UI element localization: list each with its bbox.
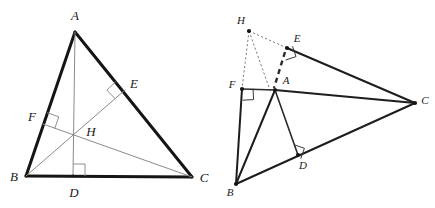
label-B-right: B	[227, 186, 234, 198]
right-right-angle-marks	[243, 46, 305, 158]
right-vertex-labels: H E A F C D B	[227, 14, 430, 198]
dashed-HE	[249, 31, 287, 48]
geometry-figure: A B C D E F H	[0, 0, 435, 208]
right-diagram-obtuse-triangle: H E A F C D B	[0, 0, 435, 208]
right-triangle-sides	[236, 48, 415, 184]
point-C-right	[413, 101, 417, 105]
side-BC	[236, 103, 415, 184]
dashed-HB	[249, 31, 271, 93]
label-H-right: H	[236, 14, 246, 26]
label-F-right: F	[228, 78, 236, 90]
label-E-right: E	[293, 32, 301, 44]
right-point-dots	[234, 29, 417, 186]
point-E-right	[285, 46, 289, 50]
point-F-right	[240, 87, 244, 91]
right-angle-at-F	[243, 89, 254, 101]
point-H-right	[247, 29, 251, 33]
point-A-right	[273, 88, 277, 92]
side-EC	[287, 48, 415, 103]
side-AC	[275, 90, 415, 103]
right-cevians	[242, 89, 298, 155]
point-B-right	[234, 182, 238, 186]
label-C-right: C	[421, 94, 429, 106]
dashed-HF	[242, 31, 249, 89]
cevian-FA-extend	[242, 89, 275, 90]
point-D-right	[296, 153, 300, 157]
label-A-right: A	[282, 74, 290, 86]
label-D-right: D	[298, 159, 307, 171]
right-dashed-segments	[242, 31, 287, 93]
